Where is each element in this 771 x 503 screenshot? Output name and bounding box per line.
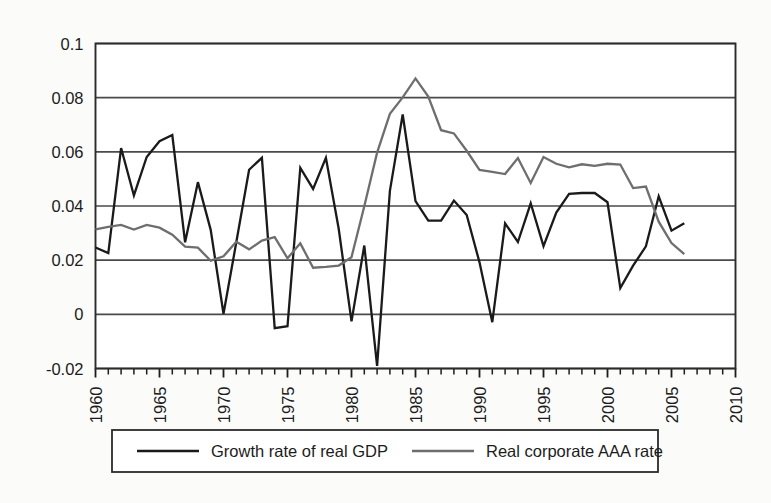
y-tick-label: -0.02 (46, 360, 84, 378)
y-tick-label: 0.06 (51, 143, 83, 161)
legend-label-1: Real corporate AAA rate (486, 442, 663, 460)
x-tick-label: 1995 (535, 387, 553, 424)
y-tick-label: 0.04 (51, 197, 83, 215)
x-tick-label: 2000 (599, 387, 617, 424)
x-tick-label: 1990 (471, 387, 489, 424)
y-tick-label: 0.02 (51, 251, 83, 269)
x-tick-label: 2010 (727, 387, 745, 424)
x-tick-label: 1975 (279, 387, 297, 424)
x-tick-label: 2005 (663, 387, 681, 424)
x-tick-label: 1980 (343, 387, 361, 424)
x-tick-label: 1960 (87, 387, 105, 424)
line-chart: -0.0200.020.040.060.080.1 19601965197019… (0, 0, 771, 503)
legend-label-0: Growth rate of real GDP (211, 442, 388, 460)
y-tick-label: 0.1 (61, 35, 84, 53)
y-tick-label: 0 (74, 305, 83, 323)
chart-figure: -0.0200.020.040.060.080.1 19601965197019… (0, 0, 771, 503)
x-tick-label: 1970 (215, 387, 233, 424)
x-tick-label: 1965 (151, 387, 169, 424)
y-tick-label: 0.08 (51, 89, 83, 107)
chart-legend: Growth rate of real GDPReal corporate AA… (112, 430, 663, 472)
x-tick-label: 1985 (407, 387, 425, 424)
